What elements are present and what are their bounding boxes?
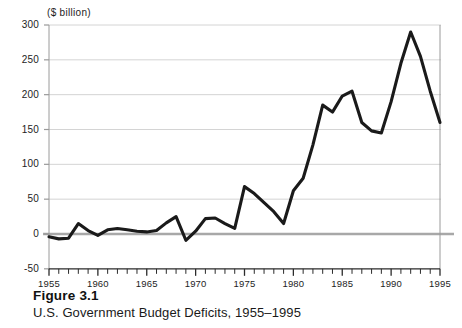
y-tick-label-150: 150	[7, 124, 39, 135]
y-tick-label--50: -50	[7, 263, 39, 274]
figure-caption: Figure 3.1 U.S. Government Budget Defici…	[33, 288, 453, 321]
y-axis-line	[49, 25, 440, 269]
y-tick-label-200: 200	[7, 89, 39, 100]
gridlines-group	[49, 25, 441, 199]
chart-plot-area: ($ billion) -50050100150200250300 195519…	[0, 0, 462, 286]
figure-number: Figure 3.1	[33, 288, 453, 303]
y-tick-label-100: 100	[7, 158, 39, 169]
deficit-series-line	[49, 32, 440, 240]
y-tick-label-50: 50	[7, 193, 39, 204]
y-axis-ticks	[44, 25, 49, 269]
y-axis-unit-label: ($ billion)	[47, 7, 91, 18]
figure-container: ($ billion) -50050100150200250300 195519…	[0, 0, 462, 328]
budget-deficit-line-chart	[0, 0, 462, 286]
y-tick-label-0: 0	[7, 228, 39, 239]
deficit-line	[49, 32, 440, 240]
y-tick-label-250: 250	[7, 54, 39, 65]
figure-caption-text: U.S. Government Budget Deficits, 1955–19…	[33, 305, 453, 321]
y-tick-label-300: 300	[7, 19, 39, 30]
x-axis-minor-ticks	[49, 269, 440, 276]
